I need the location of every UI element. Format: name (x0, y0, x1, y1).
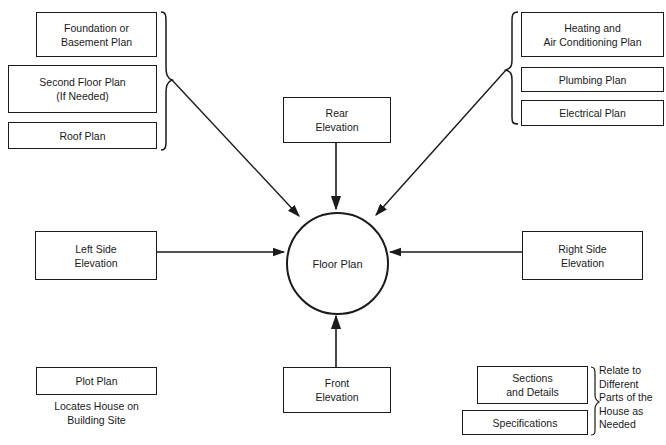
foundation-plan-box: Foundation or Basement Plan (36, 12, 157, 57)
heating-ac-plan-line1: Heating and (564, 21, 621, 35)
bottom-right-note-line3: Parts of the (599, 391, 665, 405)
brace-top-right (506, 12, 518, 124)
bottom-right-note-line4: House as (599, 405, 665, 419)
left-side-elevation-box: Left Side Elevation (35, 231, 157, 280)
electrical-plan-box: Electrical Plan (521, 100, 664, 126)
brace-bottom-right (591, 367, 599, 435)
bottom-right-note-line5: Needed (599, 418, 665, 432)
roof-plan-label: Roof Plan (59, 129, 105, 143)
right-side-elevation-line1: Right Side (558, 242, 606, 256)
floor-plan-circle: Floor Plan (286, 212, 389, 315)
sections-details-box: Sections and Details (477, 366, 588, 404)
second-floor-plan-box: Second Floor Plan (If Needed) (8, 65, 157, 113)
foundation-plan-line2: Basement Plan (61, 35, 132, 49)
sections-details-line1: Sections (512, 371, 552, 385)
sections-details-line2: and Details (506, 385, 559, 399)
specifications-box: Specifications (462, 410, 588, 435)
arrow-top-right (376, 70, 506, 215)
plot-plan-box: Plot Plan (36, 367, 157, 395)
electrical-plan-label: Electrical Plan (559, 106, 626, 120)
front-elevation-line1: Front (325, 376, 350, 390)
front-elevation-line2: Elevation (315, 390, 358, 404)
plot-plan-note: Locates House on Building Site (36, 399, 157, 427)
plumbing-plan-label: Plumbing Plan (559, 73, 627, 87)
bottom-right-note-line2: Different (599, 378, 665, 392)
left-side-elevation-line2: Elevation (74, 256, 117, 270)
foundation-plan-line1: Foundation or (64, 21, 129, 35)
plumbing-plan-box: Plumbing Plan (521, 67, 664, 92)
rear-elevation-line2: Elevation (315, 120, 358, 134)
plot-plan-note-line1: Locates House on (36, 399, 157, 413)
right-side-elevation-box: Right Side Elevation (522, 231, 643, 280)
heating-ac-plan-line2: Air Conditioning Plan (543, 35, 641, 49)
arrow-top-left (172, 80, 299, 216)
roof-plan-box: Roof Plan (8, 122, 157, 149)
heating-ac-plan-box: Heating and Air Conditioning Plan (521, 12, 664, 57)
second-floor-plan-line2: (If Needed) (56, 89, 109, 103)
plot-plan-label: Plot Plan (75, 374, 117, 388)
right-side-elevation-line2: Elevation (561, 256, 604, 270)
specifications-label: Specifications (493, 416, 558, 430)
floor-plan-label: Floor Plan (312, 258, 362, 270)
rear-elevation-box: Rear Elevation (283, 97, 391, 143)
bottom-right-note-line1: Relate to (599, 364, 665, 378)
left-side-elevation-line1: Left Side (75, 242, 116, 256)
front-elevation-box: Front Elevation (283, 367, 391, 413)
rear-elevation-line1: Rear (326, 106, 349, 120)
bottom-right-note: Relate to Different Parts of the House a… (599, 364, 665, 432)
second-floor-plan-line1: Second Floor Plan (39, 75, 125, 89)
brace-top-left (161, 12, 172, 150)
plot-plan-note-line2: Building Site (36, 413, 157, 427)
